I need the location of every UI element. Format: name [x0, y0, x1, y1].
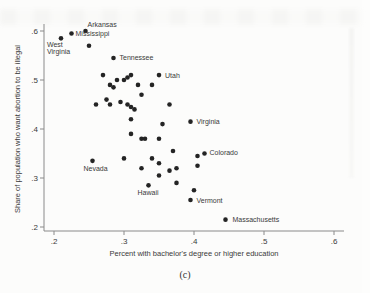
state-label: Virginia: [197, 118, 220, 126]
data-point: [101, 73, 106, 78]
data-point: [129, 132, 134, 137]
x-tick-label: .4: [191, 237, 198, 246]
data-point: [195, 154, 200, 159]
data-point: [188, 198, 193, 203]
data-point: [188, 119, 193, 124]
state-label: Nevada: [84, 165, 108, 172]
y-tick-label: .4: [31, 125, 38, 134]
data-point: [167, 168, 172, 173]
state-label: Arkansas: [88, 21, 118, 28]
data-point: [139, 92, 144, 97]
data-point: [90, 159, 95, 164]
figure-caption: (c): [0, 269, 370, 280]
state-label: Tennessee: [120, 54, 154, 61]
data-point: [146, 183, 151, 188]
data-point: [129, 73, 134, 78]
data-point: [122, 156, 127, 161]
data-point: [171, 149, 176, 154]
data-point: [223, 217, 228, 222]
state-label: Utah: [165, 72, 180, 79]
data-point: [104, 97, 109, 102]
state-label: Colorado: [210, 149, 239, 156]
data-point: [174, 181, 179, 186]
data-point: [157, 161, 162, 166]
data-point: [150, 83, 155, 88]
x-tick-label: .3: [121, 237, 128, 246]
data-point: [129, 117, 134, 122]
data-point: [69, 31, 74, 36]
y-tick-label: .6: [31, 27, 38, 36]
y-tick-label: .2: [31, 223, 38, 232]
data-point: [132, 107, 137, 112]
data-point: [111, 56, 116, 61]
state-label: Hawaii: [138, 189, 159, 196]
x-tick-label: .2: [51, 237, 58, 246]
data-point: [87, 43, 92, 48]
data-point: [157, 137, 162, 142]
data-point: [160, 122, 165, 127]
data-point: [202, 151, 207, 156]
data-point: [192, 188, 197, 193]
data-point: [115, 78, 120, 83]
scatter-plot: .2.3.4.5.6.2.3.4.5.6Percent with bachelo…: [0, 0, 362, 266]
data-point: [195, 163, 200, 168]
y-tick-label: .3: [31, 174, 38, 183]
data-point: [167, 102, 172, 107]
y-axis-title: Share of population who want abortion to…: [13, 45, 22, 213]
data-point: [157, 173, 162, 178]
data-point: [157, 73, 162, 78]
state-label: Mississippi: [76, 30, 110, 38]
state-label: Massachusetts: [233, 216, 280, 223]
data-point: [108, 102, 113, 107]
data-point: [139, 166, 144, 171]
data-point: [174, 166, 179, 171]
x-tick-label: .6: [331, 237, 338, 246]
data-point: [136, 83, 141, 88]
x-tick-label: .5: [261, 237, 268, 246]
state-label: Vermont: [197, 197, 223, 204]
x-axis-title: Percent with bachelor's degree or higher…: [109, 249, 278, 258]
data-point: [111, 85, 116, 90]
data-point: [118, 100, 123, 105]
data-point: [59, 36, 64, 41]
y-tick-label: .5: [31, 76, 38, 85]
data-point: [94, 102, 99, 107]
data-point: [150, 156, 155, 161]
data-point: [143, 137, 148, 142]
state-label: WestVirginia: [47, 41, 70, 56]
